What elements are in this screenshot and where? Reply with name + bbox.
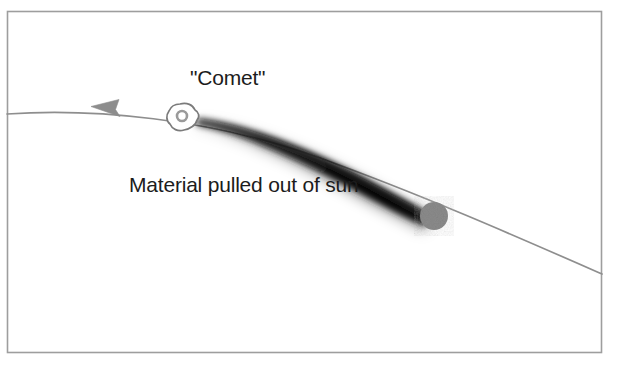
comet-label: "Comet" [190, 66, 265, 89]
comet-nucleus [167, 103, 199, 130]
comet-nucleus-core [177, 111, 187, 121]
diagram-canvas: "Comet" Material pulled out of sun [0, 0, 617, 370]
comet-diagram-figure: "Comet" Material pulled out of sun [0, 0, 617, 370]
material-label: Material pulled out of sun [129, 173, 358, 196]
sun-disc [420, 202, 448, 230]
